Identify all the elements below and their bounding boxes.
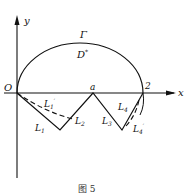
- region-d-label: D*: [76, 48, 88, 60]
- point-2-label: 2: [144, 81, 151, 91]
- diagram-figure: y x O a 2 Γ D* L1 L2 L3 L4 L1′ L4′ 图 5: [0, 0, 188, 196]
- y-axis-label: y: [23, 15, 30, 26]
- L1-prime-label: L1′: [43, 97, 56, 110]
- y-axis-arrow: [15, 15, 20, 25]
- figure-caption: 图 5: [78, 184, 96, 194]
- L1-label: L1: [34, 123, 45, 134]
- curve-gamma-label: Γ: [79, 29, 88, 40]
- x-axis-arrow: [166, 91, 176, 96]
- L4-prime-label: L4′: [132, 122, 145, 135]
- L2-label: L2: [74, 116, 85, 127]
- x-axis-label: x: [178, 87, 184, 98]
- point-a-label: a: [90, 82, 95, 92]
- L4-label: L4: [117, 102, 128, 113]
- origin-label: O: [4, 82, 12, 93]
- L3-label: L3: [101, 116, 112, 127]
